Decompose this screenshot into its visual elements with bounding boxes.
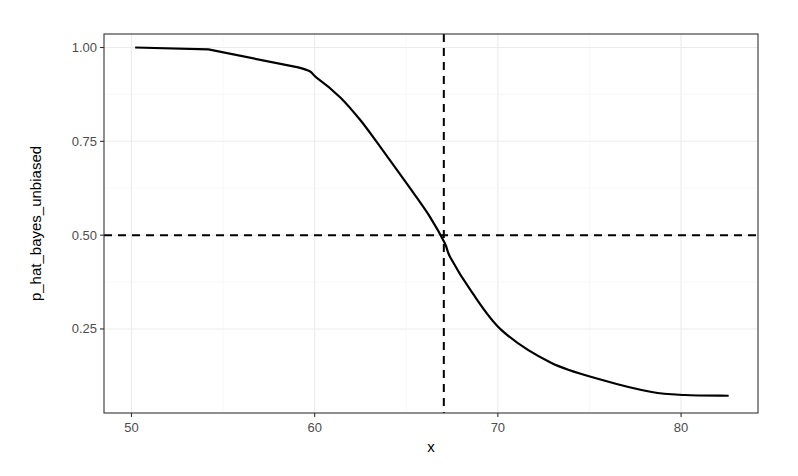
y-tick-label: 0.25 [72,321,97,336]
plot-panel [104,34,758,413]
y-tick-label: 0.50 [72,228,97,243]
x-tick-label: 70 [491,420,505,435]
data-line [135,48,729,396]
x-axis-label: x [427,438,435,455]
y-tick-label: 0.75 [72,134,97,149]
chart: 50607080 0.250.500.751.00 x p_hat_bayes_… [0,0,798,476]
x-axis-ticks: 50607080 [124,413,688,435]
x-tick-label: 60 [307,420,321,435]
y-tick-label: 1.00 [72,40,97,55]
reference-lines [104,34,758,413]
x-tick-label: 50 [124,420,138,435]
y-axis-ticks: 0.250.500.751.00 [72,40,104,336]
y-axis-label: p_hat_bayes_unbiased [27,146,44,301]
grid-lines [104,34,758,413]
x-tick-label: 80 [674,420,688,435]
